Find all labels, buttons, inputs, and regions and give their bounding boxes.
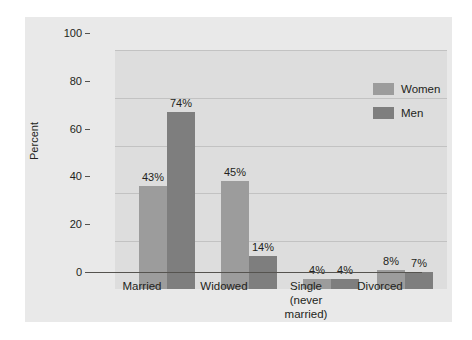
y-axis-tick-mark <box>85 224 90 225</box>
y-axis-tick-mark <box>85 81 90 82</box>
legend-swatch-icon <box>373 107 394 119</box>
bar-value-label: 43% <box>133 171 173 183</box>
chart-frame: 43%74%45%14%4%4%8%7% WomenMen <box>25 17 452 322</box>
gridline <box>115 50 447 51</box>
y-axis-ticks-group: 020406080100 <box>38 0 82 340</box>
bar-value-label: 45% <box>215 166 255 178</box>
bar-value-label: 4% <box>325 264 365 276</box>
y-axis-tick-mark <box>85 176 90 177</box>
legend: WomenMen <box>373 79 463 127</box>
y-axis-title: Percent <box>28 101 40 181</box>
bar-value-label: 7% <box>399 257 439 269</box>
bar-value-label: 14% <box>243 241 283 253</box>
y-axis-tick-mark <box>85 272 90 273</box>
y-axis-tick-mark <box>85 129 90 130</box>
y-axis-tick-label: 20 <box>42 219 82 230</box>
y-axis-tick-mark <box>85 33 90 34</box>
x-axis-line <box>90 272 422 273</box>
bar-value-label: 74% <box>161 97 201 109</box>
x-axis-category-label: Divorced <box>330 279 430 293</box>
bar-chart-figure: 43%74%45%14%4%4%8%7% WomenMen 0204060801… <box>0 0 472 340</box>
legend-label: Women <box>401 83 440 95</box>
y-axis-tick-label: 60 <box>42 124 82 135</box>
bar-men-0 <box>167 112 195 289</box>
y-axis-tick-label: 80 <box>42 76 82 87</box>
bar-women-0 <box>139 186 167 289</box>
legend-item-women: Women <box>373 79 463 98</box>
legend-label: Men <box>401 107 423 119</box>
y-axis-tick-label: 100 <box>42 28 82 39</box>
gridline <box>115 146 447 147</box>
legend-item-men: Men <box>373 103 463 122</box>
y-axis-tick-label: 40 <box>42 171 82 182</box>
legend-swatch-icon <box>373 83 394 95</box>
y-axis-tick-label: 0 <box>42 267 82 278</box>
